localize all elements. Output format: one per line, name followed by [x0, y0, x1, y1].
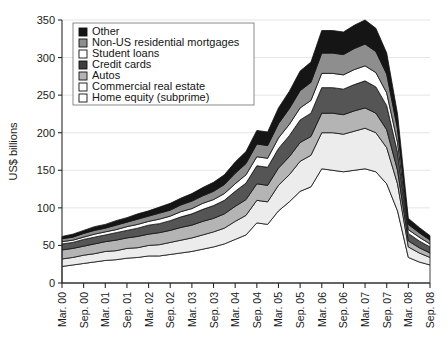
- y-tick-label: 50: [43, 239, 55, 251]
- x-tick-label: Sep. 07: [381, 292, 393, 328]
- x-tick-label: Mar. 00: [56, 292, 68, 327]
- legend-swatch: [79, 61, 87, 69]
- x-tick-label: Mar. 04: [229, 292, 241, 327]
- x-tick-label: Sep. 01: [121, 292, 133, 328]
- legend-swatch: [79, 83, 87, 91]
- x-tick-label: Mar. 02: [143, 292, 155, 327]
- x-tick-label: Mar. 06: [316, 292, 328, 327]
- x-tick-label: Sep. 00: [78, 292, 90, 328]
- y-tick-label: 250: [37, 89, 55, 101]
- legend-swatch: [79, 39, 87, 47]
- x-tick-label: Sep. 03: [208, 292, 220, 328]
- x-tick-label: Mar. 01: [99, 292, 111, 327]
- y-tick-label: 200: [37, 127, 55, 139]
- x-tick-label: Sep. 08: [424, 292, 436, 328]
- x-tick-label: Sep. 06: [337, 292, 349, 328]
- y-tick-label: 150: [37, 164, 55, 176]
- stacked-area-chart: 050100150200250300350US$ billionsMar. 00…: [0, 0, 447, 349]
- y-tick-label: 0: [49, 277, 55, 289]
- legend-swatch: [79, 72, 87, 80]
- y-tick-label: 350: [37, 14, 55, 26]
- y-tick-label: 300: [37, 52, 55, 64]
- x-tick-label: Mar. 08: [402, 292, 414, 327]
- x-tick-label: Sep. 05: [294, 292, 306, 328]
- x-tick-label: Sep. 04: [251, 292, 263, 328]
- legend-swatch: [79, 28, 87, 36]
- x-tick-label: Mar. 03: [186, 292, 198, 327]
- legend-swatch: [79, 50, 87, 58]
- y-axis-title: US$ billions: [7, 122, 19, 181]
- chart-canvas: 050100150200250300350US$ billionsMar. 00…: [0, 0, 447, 349]
- legend-swatch: [79, 94, 87, 102]
- x-tick-label: Mar. 07: [359, 292, 371, 327]
- x-tick-label: Sep. 02: [164, 292, 176, 328]
- x-tick-label: Mar. 05: [272, 292, 284, 327]
- legend-label: Home equity (subprime): [92, 91, 209, 103]
- y-tick-label: 100: [37, 202, 55, 214]
